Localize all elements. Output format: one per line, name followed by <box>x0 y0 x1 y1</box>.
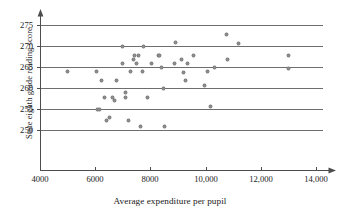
ytick-mark-265 <box>37 67 41 68</box>
data-point <box>129 70 132 73</box>
xtick-mark-12000 <box>261 167 262 171</box>
data-point <box>163 125 166 128</box>
data-point <box>105 119 108 122</box>
data-point <box>180 58 183 61</box>
xtick-label-6000: 6000 <box>72 175 118 184</box>
data-point <box>186 62 189 65</box>
gridline-250 <box>40 130 323 131</box>
xtick-label-8000: 8000 <box>127 175 173 184</box>
data-point <box>100 79 103 82</box>
data-point <box>124 91 127 94</box>
data-point <box>226 58 229 61</box>
data-point <box>158 54 161 57</box>
xtick-mark-8000 <box>150 167 151 171</box>
ytick-mark-250 <box>37 130 41 131</box>
data-point <box>203 84 206 87</box>
x-axis-title: Average expenditure per pupil <box>0 196 340 206</box>
data-point <box>192 54 195 57</box>
data-point <box>174 41 177 44</box>
ytick-mark-260 <box>37 88 41 89</box>
data-point <box>121 62 124 65</box>
gridline-255 <box>40 109 323 110</box>
data-point <box>66 70 69 73</box>
ytick-mark-255 <box>37 109 41 110</box>
xtick-label-4000: 4000 <box>17 175 63 184</box>
xtick-mark-14000 <box>316 167 317 171</box>
data-point <box>133 54 136 57</box>
scatter-plot-figure: 275 270 265 260 255 250 4000 6000 8000 1… <box>0 0 340 217</box>
data-point <box>139 125 142 128</box>
xtick-mark-4000 <box>40 167 41 171</box>
xtick-label-10000: 10,000 <box>183 175 229 184</box>
xtick-mark-6000 <box>95 167 96 171</box>
data-point <box>103 96 106 99</box>
data-point <box>225 33 228 36</box>
data-point <box>141 70 144 73</box>
data-point <box>113 99 116 102</box>
xtick-label-12000: 12,000 <box>238 175 284 184</box>
data-point <box>137 54 140 57</box>
ytick-mark-275 <box>37 25 41 26</box>
data-point <box>98 108 101 111</box>
data-point <box>121 45 124 48</box>
data-point <box>173 62 176 65</box>
data-point <box>237 42 240 45</box>
data-point <box>146 96 149 99</box>
data-point <box>95 70 98 73</box>
gridline-265 <box>40 67 323 68</box>
data-point <box>184 79 187 82</box>
data-point <box>209 105 212 108</box>
gridline-275 <box>40 25 323 26</box>
y-axis-title: State eighth grade reading score <box>24 3 34 163</box>
data-point <box>162 87 165 90</box>
data-point <box>135 62 138 65</box>
gridline-270 <box>40 46 323 47</box>
xtick-label-14000: 14,000 <box>293 175 339 184</box>
data-point <box>124 96 127 99</box>
data-point <box>150 62 153 65</box>
data-point <box>115 79 118 82</box>
data-point <box>132 58 135 61</box>
data-point <box>287 54 290 57</box>
data-point <box>182 71 185 74</box>
data-point <box>108 116 111 119</box>
ytick-mark-270 <box>37 46 41 47</box>
data-point <box>142 45 145 48</box>
data-point <box>127 119 130 122</box>
gridline-260 <box>40 88 323 89</box>
data-point <box>206 70 209 73</box>
xtick-mark-10000 <box>206 167 207 171</box>
